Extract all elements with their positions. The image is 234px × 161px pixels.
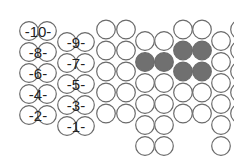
empty-circle	[155, 95, 174, 114]
row-label: -6-	[29, 65, 47, 82]
filled-circle	[193, 41, 212, 60]
empty-circle	[212, 32, 231, 51]
empty-circle	[136, 137, 155, 156]
empty-circle	[174, 20, 193, 39]
empty-circle	[231, 62, 234, 81]
empty-circle	[136, 74, 155, 93]
label-circle-pair: -5-	[58, 75, 95, 94]
empty-circle	[155, 116, 174, 135]
empty-circle	[117, 41, 136, 60]
filled-circle	[174, 41, 193, 60]
row-label: -9-	[67, 34, 85, 51]
filled-circle	[193, 62, 212, 81]
filled-circle	[174, 62, 193, 81]
row-label: -7-	[67, 55, 85, 72]
empty-circle	[212, 116, 231, 135]
diagram-canvas: -10--8--6--4--2--9--7--5--3--1-	[0, 0, 234, 161]
empty-circle	[212, 95, 231, 114]
empty-circle	[212, 74, 231, 93]
label-circle-pair: -1-	[58, 117, 95, 136]
circle-grid-diagram: -10--8--6--4--2--9--7--5--3--1-	[0, 0, 234, 161]
filled-circle	[136, 53, 155, 72]
empty-circle	[231, 20, 234, 39]
empty-circle	[231, 41, 234, 60]
empty-circle	[97, 104, 116, 123]
empty-circle	[193, 104, 212, 123]
row-label: -5-	[67, 76, 85, 93]
filled-circle	[155, 53, 174, 72]
empty-circle	[97, 41, 116, 60]
empty-circle	[97, 83, 116, 102]
row-label: -4-	[29, 86, 47, 103]
empty-circle	[193, 83, 212, 102]
row-label: -10-	[25, 23, 52, 40]
empty-circle	[174, 83, 193, 102]
empty-circle	[231, 83, 234, 102]
label-circle-pair: -7-	[58, 54, 95, 73]
label-circle-pair: -2-	[20, 106, 57, 125]
label-circle-pair: -9-	[58, 33, 95, 52]
empty-circle	[117, 20, 136, 39]
label-circle-pair: -4-	[20, 85, 57, 104]
empty-circle	[117, 62, 136, 81]
row-label: -1-	[67, 118, 85, 135]
empty-circle	[117, 104, 136, 123]
empty-circle	[136, 116, 155, 135]
row-label: -2-	[29, 107, 47, 124]
row-label: -3-	[67, 97, 85, 114]
label-circle-pair: -6-	[20, 64, 57, 83]
empty-circle	[97, 20, 116, 39]
row-label: -8-	[29, 44, 47, 61]
empty-circle	[117, 83, 136, 102]
empty-circle	[136, 32, 155, 51]
label-circle-pair: -10-	[20, 22, 57, 41]
empty-circle	[155, 74, 174, 93]
label-circle-pair: -3-	[58, 96, 95, 115]
label-circle-pair: -8-	[20, 43, 57, 62]
empty-circle	[212, 53, 231, 72]
empty-circle	[212, 137, 231, 156]
empty-circle	[155, 137, 174, 156]
empty-circle	[97, 62, 116, 81]
empty-circle	[193, 20, 212, 39]
empty-circle	[155, 32, 174, 51]
empty-circle	[174, 104, 193, 123]
empty-circle	[136, 95, 155, 114]
empty-circle	[231, 104, 234, 123]
